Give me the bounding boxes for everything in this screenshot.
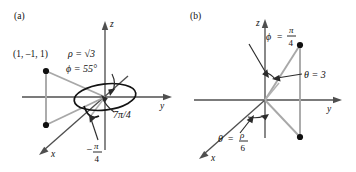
panel-a: z y x	[0, 0, 178, 172]
x-axis-b	[199, 100, 265, 159]
rho-annotation-a: ρ = √3	[67, 48, 95, 59]
x-axis-label-a: x	[50, 149, 56, 159]
theta-positive-annotation-a: 7π/4	[113, 109, 131, 120]
phi-leader-b	[249, 44, 269, 78]
theta-negative-denominator-a: 4	[95, 154, 100, 164]
point-label-a: (1, –1, 1)	[13, 49, 48, 60]
panel-b: z y x	[178, 0, 356, 172]
theta-negative-sign-a: –	[86, 144, 92, 154]
theta-negative-annotation-a: – π 4	[86, 141, 102, 164]
point-marker-lower-a	[43, 122, 49, 128]
point-marker-upper-b	[297, 42, 303, 48]
phi-annotation-b: ϕ = π 4	[266, 25, 296, 48]
z-axis-a	[102, 21, 108, 150]
theta-negative-leader-a	[89, 114, 98, 140]
point-marker-lower-b	[297, 134, 303, 140]
phi-symbol-b: ϕ	[266, 31, 271, 42]
panel-tag-b: (b)	[190, 11, 201, 22]
panel-tag-a: (a)	[14, 11, 25, 22]
theta-negative-numerator-a: π	[94, 141, 99, 151]
theta-value-annotation-b: θ = 3	[304, 69, 326, 80]
construction-lines-b	[265, 45, 300, 137]
y-axis-label-b: y	[326, 104, 332, 114]
phi-leader-a	[108, 74, 115, 96]
theta-fraction-symbol-b: θ	[218, 133, 223, 144]
z-axis-label-b: z	[255, 18, 260, 28]
theta-fraction-equals-b: =	[228, 134, 233, 144]
x-axis-label-b: x	[210, 153, 216, 163]
z-axis-label-a: z	[109, 19, 114, 29]
y-axis-label-a: y	[159, 101, 165, 111]
theta-fraction-denominator-b: 6	[241, 143, 246, 153]
point-marker-upper-a	[43, 68, 49, 74]
phi-annotation-a: ϕ = 55°	[66, 63, 97, 74]
theta-fraction-annotation-b: θ = ρ 6	[218, 130, 248, 153]
phi-equals-b: =	[277, 32, 282, 42]
phi-numerator-b: π	[289, 25, 294, 35]
theta-fraction-numerator-b: ρ	[239, 130, 245, 140]
figure-root: z y x	[0, 0, 356, 172]
phi-denominator-b: 4	[289, 38, 294, 48]
y-axis-a	[22, 94, 172, 100]
